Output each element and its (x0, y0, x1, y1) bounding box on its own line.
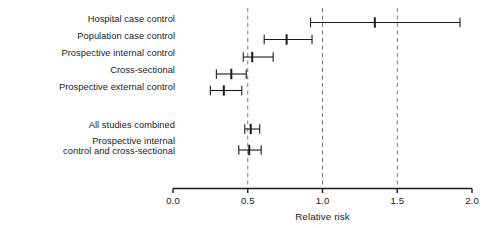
x-tick-label: 0.5 (241, 195, 255, 206)
x-axis-title: Relative risk (295, 211, 350, 222)
forest-plot-figure: Hospital case controlPopulation case con… (0, 0, 504, 228)
forest-row (239, 145, 261, 155)
forest-row (210, 85, 241, 95)
x-tick-label: 2.0 (465, 195, 479, 206)
x-tick-label: 1.5 (390, 195, 404, 206)
row-label: Prospective external control (10, 82, 175, 93)
gridlines-group (248, 8, 398, 189)
row-label: Cross-sectional (10, 65, 175, 76)
row-label: Population case control (10, 31, 175, 42)
forest-row (245, 124, 260, 134)
row-label: Hospital case control (10, 14, 175, 25)
x-tick-label: 1.0 (316, 195, 330, 206)
forest-row (264, 34, 312, 44)
row-label: All studies combined (10, 120, 175, 131)
x-tick-label: 0.0 (166, 195, 180, 206)
row-label: Prospective internal control (10, 48, 175, 59)
x-axis-group (173, 189, 472, 194)
forest-row (311, 17, 461, 27)
forest-row (216, 69, 246, 79)
row-label: Prospective internal control and cross-s… (10, 136, 175, 157)
